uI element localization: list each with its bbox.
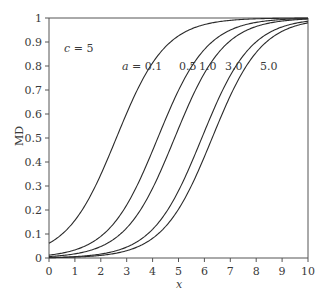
y-tick-label: 0 bbox=[35, 252, 42, 265]
param-c-label: c = 5 bbox=[64, 42, 93, 55]
y-tick-label: 0.1 bbox=[25, 228, 43, 241]
y-tick-label: 0.7 bbox=[25, 84, 43, 97]
md-vs-x-chart: 012345678910 00.10.20.30.40.50.60.70.80.… bbox=[0, 0, 328, 301]
x-tick-label: 2 bbox=[97, 265, 104, 278]
x-tick-label: 7 bbox=[227, 265, 234, 278]
x-tick-label: 3 bbox=[123, 265, 130, 278]
x-tick-label: 1 bbox=[71, 265, 78, 278]
x-tick-label: 4 bbox=[149, 265, 156, 278]
x-tick-label: 9 bbox=[279, 265, 286, 278]
curve-label-a-3-0: 3.0 bbox=[225, 60, 243, 73]
x-axis-title: x bbox=[176, 278, 183, 291]
y-tick-label: 0.4 bbox=[25, 156, 43, 169]
x-tick-label: 0 bbox=[46, 265, 53, 278]
y-tick-label: 0.3 bbox=[25, 180, 43, 193]
curve-label-a-0-5: 0.5 bbox=[179, 60, 197, 73]
curve-label-a-5-0: 5.0 bbox=[260, 60, 278, 73]
curve-label-a-1-0: 1.0 bbox=[199, 60, 217, 73]
y-axis-title: MD bbox=[13, 126, 26, 146]
y-tick-label: 0.9 bbox=[25, 36, 43, 49]
curve-a-5-0 bbox=[49, 23, 308, 258]
y-tick-label: 0.5 bbox=[25, 132, 43, 145]
x-tick-label: 8 bbox=[253, 265, 260, 278]
a-value-0-1: = 0.1 bbox=[129, 60, 163, 73]
curve-label-a-0-1: a = 0.1 bbox=[122, 60, 162, 73]
x-tick-label: 6 bbox=[201, 265, 208, 278]
y-tick-label: 1 bbox=[35, 12, 42, 25]
curve-a-3-0 bbox=[49, 21, 308, 257]
x-tick-label: 10 bbox=[301, 265, 315, 278]
y-tick-label: 0.6 bbox=[25, 108, 43, 121]
y-axis-ticks: 00.10.20.30.40.50.60.70.80.91 bbox=[25, 12, 50, 265]
y-tick-label: 0.2 bbox=[25, 204, 43, 217]
x-tick-label: 5 bbox=[175, 265, 182, 278]
y-tick-label: 0.8 bbox=[25, 60, 43, 73]
x-axis-ticks: 012345678910 bbox=[46, 258, 316, 278]
